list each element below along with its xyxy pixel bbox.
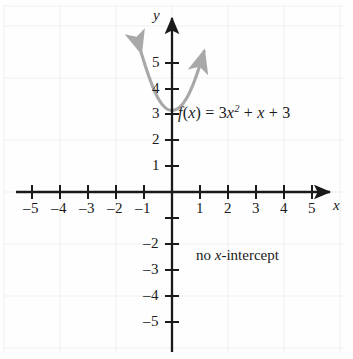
y-axis-label: y [153, 8, 160, 23]
function-argument: x [188, 104, 195, 121]
y-axis [165, 18, 179, 352]
graph-figure: y x –5 –4 –3 –2 –1 1 2 3 4 5 5 4 3 2 1 –… [0, 0, 353, 359]
y-tick-label: –3 [143, 262, 159, 277]
y-tick-label: –2 [143, 236, 159, 251]
x-tick-label: 4 [280, 201, 288, 216]
grid-lines [4, 6, 345, 352]
y-tick-label: 3 [152, 106, 160, 121]
equals-coefficient: = 3 [201, 104, 227, 121]
y-tick-label: 4 [152, 81, 160, 96]
no-x-intercept-note: no x-intercept [196, 248, 279, 263]
note-prefix: no [196, 247, 215, 263]
x-tick-label: 1 [196, 201, 204, 216]
y-tick-label: –5 [143, 314, 159, 329]
x-tick-label: –4 [51, 201, 67, 216]
plus-sign-linear: + [240, 104, 258, 121]
x-axis-label: x [333, 198, 340, 213]
linear-term: x [257, 104, 264, 121]
y-tick-label: 5 [152, 55, 160, 70]
function-equation-label: f(x) = 3x2 + x + 3 [178, 104, 290, 121]
x-tick-label: 3 [252, 201, 260, 216]
constant-term: + 3 [265, 104, 291, 121]
x-tick-label: –5 [23, 201, 39, 216]
y-tick-label: 2 [152, 132, 160, 147]
x-tick-label: –2 [107, 201, 123, 216]
x-tick-label: 2 [224, 201, 232, 216]
x-tick-label: –3 [79, 201, 95, 216]
x-tick-label: –1 [135, 201, 151, 216]
note-suffix: -intercept [221, 247, 278, 263]
y-tick-label: 1 [152, 158, 160, 173]
coordinate-plane [0, 0, 353, 359]
y-tick-label: –4 [143, 288, 159, 303]
x-tick-label: 5 [308, 201, 316, 216]
